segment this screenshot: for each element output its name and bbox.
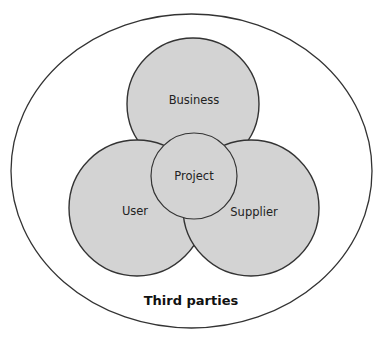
business-label: Business [169, 93, 220, 107]
user-label: User [122, 204, 148, 218]
project-label: Project [174, 169, 214, 183]
third-parties-label: Third parties [144, 293, 239, 308]
supplier-label: Supplier [230, 205, 278, 219]
venn-diagram: Business User Supplier Project Third par… [0, 0, 379, 337]
